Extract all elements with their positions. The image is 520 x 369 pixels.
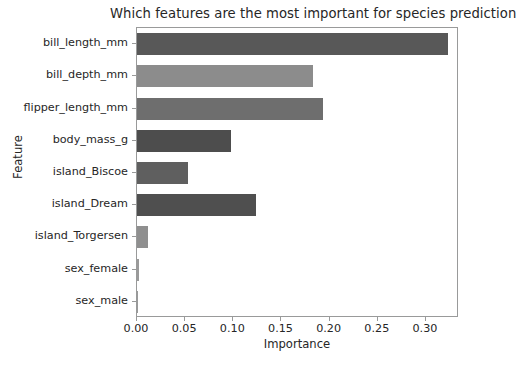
bars-layer <box>137 28 457 316</box>
bar <box>137 226 148 248</box>
y-tick-label: sex_male <box>76 295 128 306</box>
bar <box>137 259 139 281</box>
y-tick-label: island_Dream <box>52 199 128 210</box>
x-tick-mark <box>136 317 137 321</box>
x-tick-label: 0.00 <box>124 323 149 334</box>
x-axis-label: Importance <box>136 337 458 351</box>
x-tick-mark <box>232 317 233 321</box>
bar <box>137 291 138 313</box>
x-tick-label: 0.30 <box>412 323 437 334</box>
x-tick-mark <box>425 317 426 321</box>
x-tick-mark <box>377 317 378 321</box>
y-tick-label: bill_length_mm <box>43 38 128 49</box>
x-tick-mark <box>329 317 330 321</box>
x-tick-label: 0.10 <box>220 323 245 334</box>
y-tick-label: sex_female <box>65 263 128 274</box>
x-tick-label: 0.15 <box>268 323 293 334</box>
bar <box>137 130 231 152</box>
plot-area <box>136 27 458 317</box>
y-tick-label: flipper_length_mm <box>24 102 128 113</box>
bar <box>137 98 323 120</box>
bar <box>137 194 256 216</box>
chart-title: Which features are the most important fo… <box>110 6 520 21</box>
y-axis-label: Feature <box>11 117 25 197</box>
y-tick-label: island_Torgersen <box>35 231 128 242</box>
y-tick-label: bill_depth_mm <box>46 70 128 81</box>
x-tick-mark <box>280 317 281 321</box>
x-tick-label: 0.20 <box>316 323 341 334</box>
bar <box>137 65 313 87</box>
x-tick-label: 0.25 <box>364 323 389 334</box>
bar <box>137 33 448 55</box>
x-tick-mark <box>184 317 185 321</box>
bar <box>137 162 188 184</box>
x-tick-label: 0.05 <box>172 323 197 334</box>
y-tick-label: body_mass_g <box>53 134 128 145</box>
y-tick-label: island_Biscoe <box>53 166 128 177</box>
